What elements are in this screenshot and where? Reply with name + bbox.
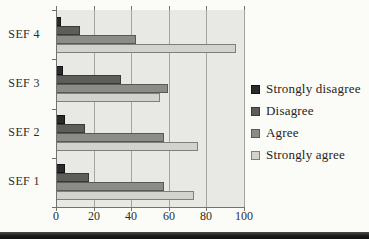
legend-label-disagree: Disagree [266, 103, 314, 119]
bar-disagree-sef-4 [57, 26, 80, 35]
tick-top-60 [169, 6, 170, 10]
bar-agree-sef-4 [57, 35, 136, 44]
x-tick-label-100: 100 [235, 210, 253, 223]
legend-item-strongly-disagree: Strongly disagree [251, 78, 361, 100]
bar-strongly-agree-sef-1 [57, 191, 194, 200]
gridline-80 [206, 10, 207, 207]
x-tick-label-40: 40 [125, 210, 137, 223]
bar-disagree-sef-1 [57, 173, 89, 182]
bar-strongly-disagree-sef-1 [57, 164, 65, 173]
legend-label-strongly-agree: Strongly agree [266, 147, 345, 163]
tick-top-100 [244, 6, 245, 10]
x-tick-label-60: 60 [163, 210, 175, 223]
legend-swatch-strongly-disagree-icon [251, 85, 260, 94]
legend-swatch-strongly-agree-icon [251, 151, 260, 160]
tick-category-2 [52, 109, 56, 110]
scanned-figure-page: SEF 4SEF 3SEF 2SEF 1020406080100Strongly… [0, 0, 369, 239]
bar-agree-sef-3 [57, 84, 168, 93]
bar-strongly-disagree-sef-2 [57, 115, 65, 124]
tick-category-0 [52, 10, 56, 11]
bar-disagree-sef-2 [57, 124, 85, 133]
legend-swatch-disagree-icon [251, 107, 260, 116]
bar-strongly-agree-sef-4 [57, 44, 236, 53]
bar-strongly-agree-sef-3 [57, 93, 160, 102]
gridline-100 [244, 10, 245, 207]
category-label-sef-2: SEF 2 [0, 125, 40, 140]
gridline-60 [169, 10, 170, 207]
legend-label-strongly-disagree: Strongly disagree [266, 81, 361, 97]
category-label-sef-1: SEF 1 [0, 174, 40, 189]
legend-item-disagree: Disagree [251, 100, 361, 122]
bar-disagree-sef-3 [57, 75, 121, 84]
legend: Strongly disagreeDisagreeAgreeStrongly a… [251, 78, 361, 166]
legend-item-strongly-agree: Strongly agree [251, 144, 361, 166]
plot-area [56, 10, 245, 208]
tick-top-20 [94, 6, 95, 10]
bar-strongly-disagree-sef-3 [57, 66, 63, 75]
legend-item-agree: Agree [251, 122, 361, 144]
tick-category-4 [52, 207, 56, 208]
tick-top-80 [206, 6, 207, 10]
bar-strongly-agree-sef-2 [57, 142, 198, 151]
x-tick-label-80: 80 [200, 210, 212, 223]
tick-category-3 [52, 158, 56, 159]
x-tick-label-0: 0 [53, 210, 59, 223]
page-bottom-rule [0, 232, 369, 239]
legend-swatch-agree-icon [251, 129, 260, 138]
category-label-sef-4: SEF 4 [0, 27, 40, 42]
grouped-horizontal-bar-chart: SEF 4SEF 3SEF 2SEF 1020406080100Strongly… [0, 0, 369, 239]
tick-top-0 [56, 6, 57, 10]
category-label-sef-3: SEF 3 [0, 76, 40, 91]
bar-agree-sef-1 [57, 182, 164, 191]
bar-agree-sef-2 [57, 133, 164, 142]
bar-strongly-disagree-sef-4 [57, 17, 61, 26]
legend-label-agree: Agree [266, 125, 299, 141]
x-tick-label-20: 20 [88, 210, 100, 223]
tick-category-1 [52, 59, 56, 60]
tick-top-40 [131, 6, 132, 10]
